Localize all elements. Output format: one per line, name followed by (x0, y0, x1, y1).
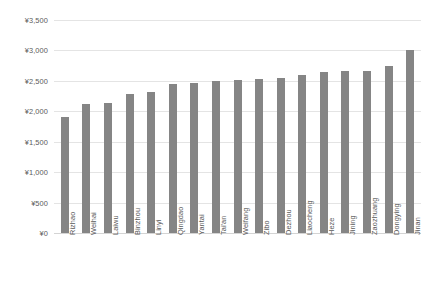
y-tick-label: ¥1,000 (25, 168, 48, 177)
y-axis: ¥3,500¥3,000¥2,500¥2,000¥1,500¥1,000¥500… (0, 0, 52, 298)
x-tick-label: Yantai (197, 214, 206, 235)
x-tick-label: Qingdao (176, 207, 185, 235)
bar-chart: ¥3,500¥3,000¥2,500¥2,000¥1,500¥1,000¥500… (0, 0, 425, 298)
x-tick-label: Laiwu (111, 215, 120, 235)
x-tick-label: Weihai (89, 212, 98, 235)
plot-area (54, 20, 421, 233)
bar (147, 92, 155, 233)
x-axis: RizhaoWeihaiLaiwuBinzhouLinyiQingdaoYant… (54, 235, 421, 298)
y-tick-label: ¥3,000 (25, 46, 48, 55)
x-tick-label: Dongying (392, 203, 401, 235)
bar (255, 79, 263, 233)
x-tick-label: Weifang (241, 208, 250, 235)
bars-container (54, 20, 421, 233)
bar (190, 83, 198, 233)
bar (341, 71, 349, 233)
x-tick-label: Rizhao (68, 212, 77, 235)
x-tick-label: Binzhou (133, 208, 142, 235)
bar (104, 103, 112, 233)
x-tick-label: Zaozhuang (370, 198, 379, 235)
x-tick-label: Tai'an (219, 216, 228, 235)
x-tick-label: Jining (348, 215, 357, 235)
bar (212, 81, 220, 233)
x-tick-label: Jinan (413, 217, 422, 235)
y-tick-label: ¥500 (31, 198, 48, 207)
x-tick-label: Zibo (262, 220, 271, 235)
y-tick-label: ¥3,500 (25, 16, 48, 25)
x-tick-label: Linyi (154, 220, 163, 235)
bar (320, 72, 328, 233)
bar (406, 50, 414, 233)
y-tick-label: ¥1,500 (25, 137, 48, 146)
x-tick-label: Heze (327, 218, 336, 235)
y-tick-label: ¥2,000 (25, 107, 48, 116)
x-tick-label: Liaocheng (305, 200, 314, 235)
x-tick-label: Dezhou (284, 209, 293, 235)
y-tick-label: ¥0 (40, 229, 48, 238)
y-tick-label: ¥2,500 (25, 76, 48, 85)
gridline (54, 233, 421, 234)
